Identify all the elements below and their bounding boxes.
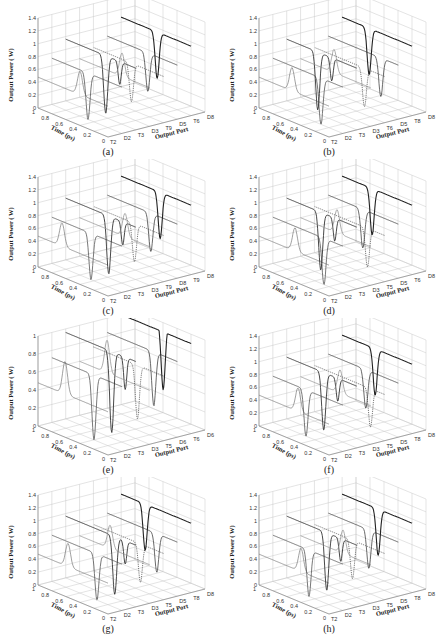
time-tick: 0: [323, 615, 326, 621]
time-tick: 0.4: [290, 603, 298, 609]
time-tick: 0.4: [290, 126, 298, 132]
panel-e: 00.20.40.60.8100.20.40.60.81T2D2T3D3T5D6…: [0, 318, 221, 477]
z-tick: 1.4: [249, 15, 257, 21]
trace-port-5: [107, 36, 177, 91]
trace-port-2: [66, 333, 136, 433]
z-tick: 0.8: [249, 54, 257, 60]
z-tick: 1.4: [28, 174, 36, 180]
z-tick: 0.8: [28, 351, 36, 357]
z-tick: 0.6: [249, 543, 257, 549]
z-tick: 1.2: [249, 346, 257, 352]
trace-port-2: [287, 516, 357, 590]
panel-b-axes: 00.20.40.60.811.21.400.20.40.60.81T2D2T3…: [228, 0, 435, 145]
trace-port-4: [314, 47, 384, 106]
time-tick: 1: [32, 586, 35, 592]
z-tick: 0.8: [28, 54, 36, 60]
z-tick: 0.2: [249, 251, 257, 257]
port-tick: T3: [138, 609, 144, 615]
z-tick: 0.6: [28, 543, 36, 549]
z-tick: 0.2: [28, 251, 36, 257]
port-tick: T8: [414, 595, 420, 601]
z-axis-label: Output Power ( W): [7, 366, 15, 419]
z-axis-label: Output Power ( W): [7, 207, 15, 260]
time-tick: 1: [253, 586, 256, 592]
z-tick: 0.2: [28, 569, 36, 575]
z-tick: 0.6: [28, 369, 36, 375]
z-tick: 1: [254, 518, 257, 524]
panel-g-axes: 00.20.40.60.811.21.400.20.40.60.81T2D2T3…: [7, 477, 214, 622]
z-tick: 0.8: [28, 531, 36, 537]
z-tick: 0.8: [249, 531, 257, 537]
port-tick: D2: [345, 612, 352, 618]
z-tick: 0.4: [28, 238, 36, 244]
port-tick: T8: [414, 118, 420, 124]
trace-port-3: [301, 210, 371, 247]
trace-port-3: [80, 53, 150, 87]
trace-port-2: [287, 198, 357, 270]
time-tick: 0.2: [304, 450, 312, 456]
z-tick: 0.2: [249, 569, 257, 575]
port-tick: D8: [428, 114, 435, 120]
panel-b-traces: [259, 17, 412, 124]
z-tick: 0.4: [249, 397, 257, 403]
z-tick: 0.6: [28, 225, 36, 231]
time-tick: 0.8: [41, 433, 49, 439]
port-tick: T6: [193, 436, 199, 442]
time-tick: 0: [323, 456, 326, 462]
panel-h: 00.20.40.60.811.21.400.20.40.60.81T2D2T3…: [221, 477, 442, 636]
port-tick: D8: [428, 273, 435, 279]
port-tick: T3: [359, 609, 365, 615]
port-tick: D2: [124, 135, 131, 141]
time-tick: 1: [253, 427, 256, 433]
trace-port-0: [38, 223, 108, 265]
time-tick: 1: [32, 427, 35, 433]
trace-port-4: [93, 524, 163, 582]
z-axis-label: Output Power ( W): [228, 48, 236, 101]
trace-port-5: [328, 354, 398, 408]
port-tick: T2: [110, 457, 116, 463]
port-tick: D2: [124, 294, 131, 300]
time-tick: 0.4: [290, 285, 298, 291]
time-tick: 0.8: [262, 592, 270, 598]
port-tick: D2: [345, 453, 352, 459]
trace-port-3: [301, 530, 371, 565]
time-tick: 0: [102, 615, 105, 621]
z-tick: 0.4: [28, 387, 36, 393]
port-tick: T6: [193, 118, 199, 124]
panel-a: 00.20.40.60.811.21.400.20.40.60.81T2D2T3…: [0, 0, 221, 159]
trace-port-6: [342, 494, 412, 555]
trace-port-0: [259, 548, 329, 583]
port-tick: T2: [331, 298, 337, 304]
z-tick: 0.6: [249, 384, 257, 390]
port-tick: T8: [193, 595, 199, 601]
z-tick: 1.4: [249, 174, 257, 180]
port-tick: D2: [345, 135, 352, 141]
trace-port-0: [38, 71, 108, 106]
port-tick: D2: [124, 453, 131, 459]
time-tick: 0: [102, 456, 105, 462]
trace-port-2: [66, 39, 136, 113]
port-tick: T3: [359, 291, 365, 297]
z-tick: 1.4: [28, 15, 36, 21]
panel-caption: (c): [102, 305, 113, 317]
port-tick: D8: [428, 591, 435, 597]
trace-port-3: [80, 213, 150, 246]
trace-port-2: [287, 357, 357, 430]
port-tick: T3: [138, 291, 144, 297]
z-tick: 1: [33, 41, 36, 47]
panel-h-axes: 00.20.40.60.811.21.400.20.40.60.81T2D2T3…: [228, 477, 435, 622]
time-tick: 0.4: [69, 603, 77, 609]
time-tick: 0.2: [83, 132, 91, 138]
port-tick: D2: [345, 294, 352, 300]
z-axis-label: Output Power ( W): [7, 48, 15, 101]
z-tick: 1: [254, 200, 257, 206]
z-tick: 1.2: [28, 187, 36, 193]
time-tick: 0.8: [262, 433, 270, 439]
panel-caption: (e): [102, 464, 113, 476]
time-tick: 1: [253, 109, 256, 115]
trace-port-6: [121, 176, 191, 239]
panel-f-axes: 00.20.40.60.811.21.400.20.40.60.81T2D2T3…: [228, 318, 435, 463]
z-axis-label: Output Power ( W): [228, 207, 236, 260]
z-tick: 0.2: [249, 410, 257, 416]
z-tick: 1: [33, 333, 36, 339]
